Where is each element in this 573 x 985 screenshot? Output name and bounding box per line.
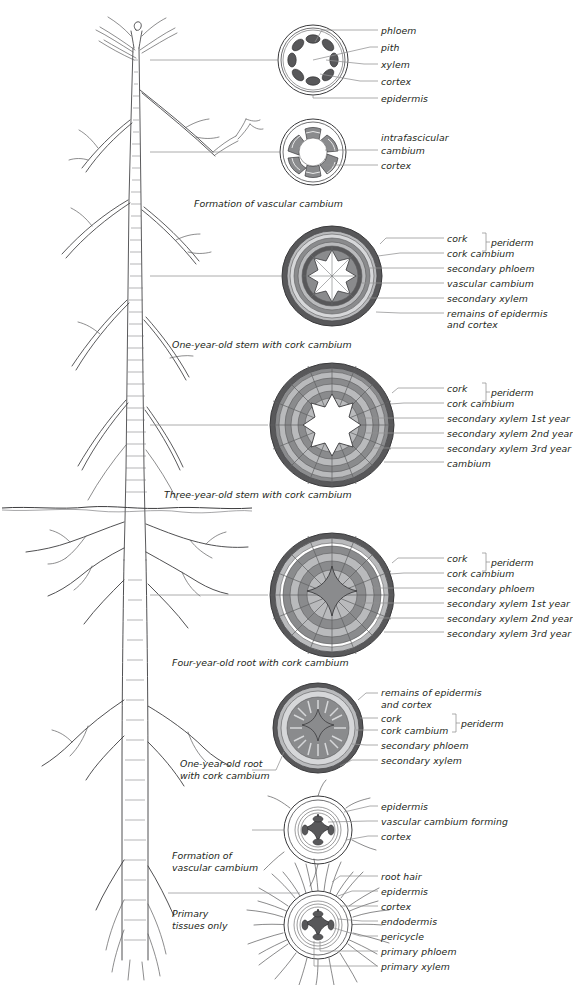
label-root-hair: root hair bbox=[381, 871, 422, 882]
caption-four-year-root: Four-year-old root with cork cambium bbox=[172, 657, 349, 669]
label-intrafascicular: intrafascicular bbox=[381, 132, 449, 143]
label-secondary-phloem-1: secondary phloem bbox=[447, 263, 535, 274]
label-secondary-xylem-3rd-year-root: secondary xylem 3rd year bbox=[447, 628, 571, 639]
label-cork-4: cork bbox=[381, 713, 401, 724]
label-cork-cambium-1: cork cambium bbox=[447, 248, 514, 259]
label-secondary-xylem-2nd-year-root: secondary xylem 2nd year bbox=[447, 613, 573, 624]
label-and-cortex-2: and cortex bbox=[381, 699, 432, 710]
panel-four-year-root-drawing bbox=[150, 533, 490, 657]
label-secondary-xylem-2: secondary xylem bbox=[381, 755, 462, 766]
caption-one-year-stem: One-year-old stem with cork cambium bbox=[172, 339, 352, 351]
label-secondary-xylem-1st-year-stem: secondary xylem 1st year bbox=[447, 413, 570, 424]
label-cortex: cortex bbox=[381, 76, 411, 87]
caption-formation-vascular-cambium: Formation of vascular cambium bbox=[194, 198, 343, 210]
label-phloem: phloem bbox=[381, 25, 416, 36]
label-epidermis-2: epidermis bbox=[381, 801, 428, 812]
label-secondary-xylem-1st-year-root: secondary xylem 1st year bbox=[447, 598, 570, 609]
caption-formation-vascular-cambium-root-line1: Formation of bbox=[172, 850, 232, 862]
caption-one-year-root-line1: One-year-old root bbox=[180, 758, 263, 770]
label-secondary-xylem-1: secondary xylem bbox=[447, 293, 528, 304]
label-epidermis: epidermis bbox=[381, 93, 428, 104]
label-vascular-cambium-forming: vascular cambium forming bbox=[381, 816, 508, 827]
label-vascular-cambium-1: vascular cambium bbox=[447, 278, 534, 289]
label-xylem: xylem bbox=[381, 59, 410, 70]
bracket-periderm-4: periderm bbox=[461, 718, 504, 729]
label-cork-3: cork bbox=[447, 553, 467, 564]
soil-line bbox=[2, 507, 252, 509]
label-primary-phloem: primary phloem bbox=[381, 946, 457, 957]
label-cork-cambium-3: cork cambium bbox=[447, 568, 514, 579]
bracket-periderm-3: periderm bbox=[491, 557, 534, 568]
bracket-periderm-1: periderm bbox=[491, 237, 534, 248]
caption-formation-vascular-cambium-root-line2: vascular cambium bbox=[172, 862, 258, 874]
bracket-periderm-2: periderm bbox=[491, 387, 534, 398]
label-cork-cambium-4: cork cambium bbox=[381, 725, 448, 736]
label-cork-2: cork bbox=[447, 383, 467, 394]
caption-three-year-stem: Three-year-old stem with cork cambium bbox=[164, 489, 352, 501]
label-pith: pith bbox=[381, 42, 399, 53]
label-remains-epidermis-1: remains of epidermis bbox=[447, 308, 548, 319]
panel-primary-root-drawing bbox=[247, 859, 389, 985]
label-primary-xylem: primary xylem bbox=[381, 961, 450, 972]
caption-primary-tissues-line1: Primary bbox=[172, 908, 208, 920]
label-cortex-3: cortex bbox=[381, 831, 411, 842]
panel-young-stem-drawing bbox=[150, 25, 378, 98]
label-and-cortex-1: and cortex bbox=[447, 319, 498, 330]
label-secondary-xylem-2nd-year-stem: secondary xylem 2nd year bbox=[447, 428, 573, 439]
label-secondary-phloem-2: secondary phloem bbox=[381, 740, 469, 751]
label-cork-1: cork bbox=[447, 233, 467, 244]
label-secondary-xylem-3rd-year-stem: secondary xylem 3rd year bbox=[447, 443, 571, 454]
label-secondary-phloem-root: secondary phloem bbox=[447, 583, 535, 594]
caption-primary-tissues-line2: tissues only bbox=[172, 920, 227, 932]
label-cork-cambium-2: cork cambium bbox=[447, 398, 514, 409]
label-pericycle: pericycle bbox=[381, 931, 424, 942]
label-cortex-2: cortex bbox=[381, 160, 411, 171]
label-endodermis: endodermis bbox=[381, 916, 437, 927]
panel-three-year-stem-drawing bbox=[150, 363, 490, 487]
label-cambium-stem: cambium bbox=[447, 458, 491, 469]
label-epidermis-3: epidermis bbox=[381, 886, 428, 897]
label-cortex-4: cortex bbox=[381, 901, 411, 912]
panel-one-year-stem-drawing bbox=[150, 226, 490, 326]
caption-one-year-root-line2: with cork cambium bbox=[180, 770, 270, 782]
panel-root-vascular-cambium-drawing bbox=[252, 780, 378, 886]
label-cambium: cambium bbox=[381, 145, 425, 156]
label-remains-epidermis-2: remains of epidermis bbox=[381, 687, 482, 698]
